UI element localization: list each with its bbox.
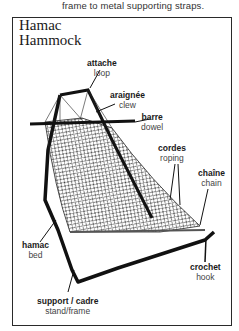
label-hook: crochet hook — [190, 262, 221, 282]
label-stand-frame: support / cadre stand/frame — [37, 296, 98, 316]
label-bed: hamac bed — [22, 240, 49, 260]
label-loop: attache loop — [87, 58, 117, 78]
label-clew: araignée clew — [110, 90, 145, 110]
label-dowel: barre dowel — [141, 112, 163, 132]
label-roping: cordes roping — [158, 143, 186, 163]
label-chain: chaîne chain — [198, 168, 225, 188]
